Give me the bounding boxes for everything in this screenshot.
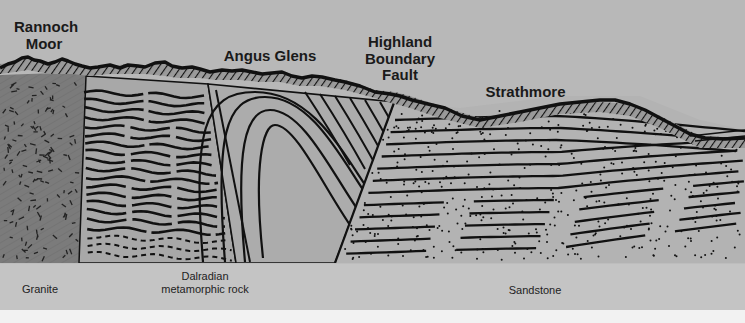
label-rannoch-moor: Rannoch Moor: [14, 18, 74, 53]
sandstone-grain: [650, 239, 652, 241]
sandstone-grain: [655, 161, 657, 163]
sandstone-grain: [660, 133, 662, 135]
sandstone-grain: [410, 249, 412, 251]
sandstone-grain: [416, 227, 418, 229]
sandstone-grain: [528, 233, 530, 235]
sandstone-grain: [393, 151, 395, 153]
sandstone-grain: [613, 163, 615, 165]
sandstone-grain: [479, 131, 481, 133]
sandstone-grain: [598, 256, 600, 258]
sandstone-grain: [488, 183, 490, 185]
sandstone-grain: [717, 197, 719, 199]
sandstone-grain: [511, 154, 513, 156]
sandstone-grain: [572, 248, 574, 250]
sandstone-grain: [560, 192, 562, 194]
sandstone-grain: [737, 230, 739, 232]
sandstone-grain: [602, 148, 604, 150]
sandstone-grain: [705, 171, 707, 173]
granite-fleck: [72, 223, 76, 224]
sandstone-grain: [374, 233, 376, 235]
sandstone-grain: [405, 213, 407, 215]
sandstone-grain: [421, 120, 423, 122]
sandstone-grain: [634, 149, 636, 151]
granite-fleck: [17, 255, 18, 259]
sandstone-grain: [720, 163, 722, 165]
sandstone-grain: [420, 126, 422, 128]
sandstone-grain: [529, 132, 531, 134]
sandstone-grain: [385, 179, 387, 181]
sandstone-grain: [378, 172, 380, 174]
legend-dalradian: Dalradian metamorphic rock: [150, 270, 260, 295]
sandstone-grain: [550, 164, 552, 166]
sandstone-grain: [608, 184, 610, 186]
sandstone-grain: [415, 128, 417, 130]
sandstone-grain: [429, 150, 431, 152]
sandstone-grain: [437, 227, 439, 229]
granite-fleck: [53, 110, 54, 114]
sandstone-grain: [413, 182, 415, 184]
sandstone-grain: [561, 242, 563, 244]
sandstone-grain: [507, 180, 509, 182]
label-line: Moor: [14, 35, 74, 52]
sandstone-grain: [630, 228, 632, 230]
sandstone-grain: [433, 257, 435, 259]
granite-fleck: [12, 169, 13, 173]
sandstone-grain: [505, 233, 507, 235]
sandstone-grain: [434, 159, 436, 161]
sandstone-grain: [709, 185, 711, 187]
sandstone-grain: [651, 222, 653, 224]
sandstone-grain: [503, 232, 505, 234]
sandstone-grain: [649, 215, 651, 217]
granite-layer: [0, 72, 86, 263]
sandstone-grain: [711, 253, 713, 255]
sandstone-grain: [391, 216, 393, 218]
sandstone-grain: [690, 240, 692, 242]
sandstone-grain: [435, 128, 437, 130]
sandstone-grain: [703, 192, 705, 194]
sandstone-grain: [626, 225, 628, 227]
sandstone-grain: [432, 127, 434, 129]
sandstone-grain: [418, 206, 420, 208]
label-angus-glens: Angus Glens: [220, 47, 320, 64]
sandstone-grain: [448, 230, 450, 232]
sandstone-grain: [585, 197, 587, 199]
sandstone-grain: [711, 216, 713, 218]
sandstone-grain: [352, 234, 354, 236]
sandstone-grain: [655, 240, 657, 242]
sandstone-grain: [505, 208, 507, 210]
label-line: Rannoch: [14, 18, 74, 35]
sandstone-grain: [427, 146, 429, 148]
sandstone-grain: [621, 162, 623, 164]
sandstone-grain: [521, 211, 523, 213]
sandstone-grain: [685, 188, 687, 190]
sandstone-grain: [416, 236, 418, 238]
sandstone-grain: [674, 198, 676, 200]
sandstone-grain: [599, 226, 601, 228]
sandstone-grain: [711, 240, 713, 242]
sandstone-grain: [612, 118, 614, 120]
sandstone-grain: [632, 127, 634, 129]
sandstone-grain: [370, 253, 372, 255]
sandstone-grain: [436, 143, 438, 145]
granite-fleck: [21, 174, 22, 178]
sandstone-grain: [499, 110, 501, 112]
sandstone-grain: [725, 257, 727, 259]
sandstone-grain: [462, 205, 464, 207]
sandstone-grain: [483, 187, 485, 189]
sandstone-grain: [526, 199, 528, 201]
sandstone-grain: [418, 186, 420, 188]
sandstone-grain: [604, 146, 606, 148]
sandstone-grain: [421, 171, 423, 173]
sandstone-grain: [388, 136, 390, 138]
sandstone-grain: [670, 195, 672, 197]
sandstone-grain: [690, 238, 692, 240]
sandstone-grain: [560, 144, 562, 146]
sandstone-grain: [446, 161, 448, 163]
sandstone-grain: [648, 180, 650, 182]
legend-granite: Granite: [10, 283, 70, 296]
sandstone-grain: [648, 153, 650, 155]
sandstone-grain: [591, 247, 593, 249]
sandstone-grain: [714, 205, 716, 207]
sandstone-grain: [650, 209, 652, 211]
sandstone-grain: [443, 177, 445, 179]
